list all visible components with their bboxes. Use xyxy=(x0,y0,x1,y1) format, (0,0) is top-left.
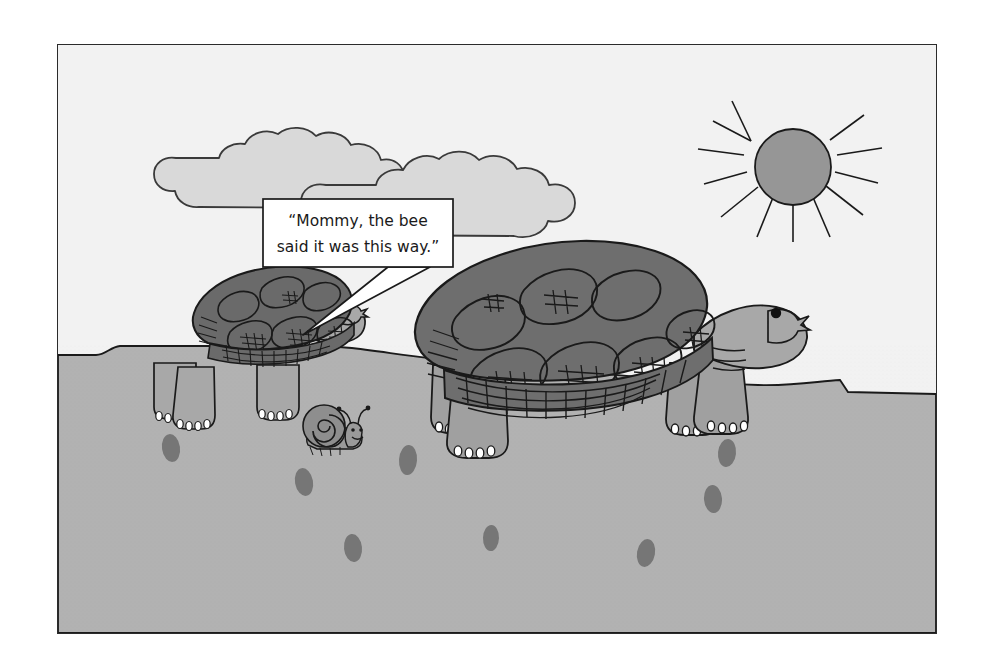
illustration-stage: Horowitz, M. and Symons, D. (1992). Whos… xyxy=(0,0,994,669)
snail-eye xyxy=(359,428,363,432)
speech-bubble-line-2: said it was this way.” xyxy=(277,238,439,256)
scene-artwork: “Mommy, the bee said it was this way.” xyxy=(58,45,936,633)
snail-shell xyxy=(303,405,345,447)
large-tortoise-eye xyxy=(771,308,781,318)
comic-panel: Horowitz, M. and Symons, D. (1992). Whos… xyxy=(57,44,937,634)
speech-bubble-line-1: “Mommy, the bee xyxy=(288,212,427,230)
snail-eye xyxy=(351,428,355,432)
speech-bubble-box xyxy=(263,199,453,267)
